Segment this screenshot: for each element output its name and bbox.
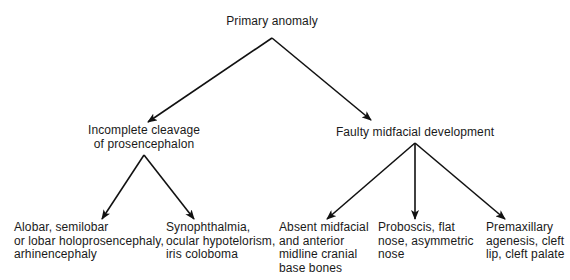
node-label-line-1: Proboscis, flat (378, 221, 474, 235)
node-primary-anomaly: Primary anomaly (212, 15, 332, 29)
edge-midfacial-to-absent-midfacial (327, 143, 415, 219)
node-absent-midfacial: Absent midfacial and anterior midline cr… (279, 221, 369, 275)
node-label-line-1: Premaxillary (486, 221, 564, 235)
node-faulty-midfacial-development: Faulty midfacial development (320, 126, 510, 140)
edge-primary-to-cleavage (148, 38, 272, 122)
node-label-line-3: iris coloboma (166, 248, 275, 262)
node-label: Primary anomaly (212, 15, 332, 29)
node-label-line-1: Synophthalmia, (166, 221, 275, 235)
node-label-line-2: ocular hypotelorism, (166, 235, 275, 249)
node-label-line-2: and anterior (279, 235, 369, 249)
node-holoprosencephaly: Alobar, semilobar or lobar holoprosencep… (14, 221, 164, 262)
node-label-line-2: of prosencephalon (74, 138, 214, 152)
node-label-line-1: Alobar, semilobar (14, 221, 164, 235)
node-label-line-3: midline cranial (279, 248, 369, 262)
edge-cleavage-to-holoprosencephaly (102, 155, 144, 219)
node-label-line-4: base bones (279, 262, 369, 276)
node-synophthalmia: Synophthalmia, ocular hypotelorism, iris… (166, 221, 275, 262)
node-label-line-1: Incomplete cleavage (74, 124, 214, 138)
edge-midfacial-to-premaxillary (415, 143, 505, 219)
node-label-line-3: arhinencephaly (14, 248, 164, 262)
node-label-line-2: or lobar holoprosencephaly, (14, 235, 164, 249)
node-label-line-1: Absent midfacial (279, 221, 369, 235)
anomaly-tree-diagram: Primary anomaly Incomplete cleavage of p… (0, 0, 570, 280)
node-incomplete-cleavage: Incomplete cleavage of prosencephalon (74, 124, 214, 151)
edge-cleavage-to-synophthalmia (144, 155, 194, 219)
node-premaxillary: Premaxillary agenesis, cleft lip, cleft … (486, 221, 564, 262)
node-label-line-1: Faulty midfacial development (320, 126, 510, 140)
node-label-line-2: agenesis, cleft (486, 235, 564, 249)
node-label-line-3: nose (378, 248, 474, 262)
node-label-line-2: nose, asymmetric (378, 235, 474, 249)
edge-primary-to-midfacial (272, 38, 371, 120)
node-label-line-3: lip, cleft palate (486, 248, 564, 262)
node-proboscis: Proboscis, flat nose, asymmetric nose (378, 221, 474, 262)
